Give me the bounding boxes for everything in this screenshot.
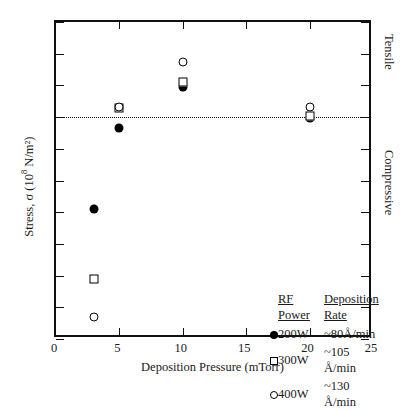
y-tick-right (361, 54, 369, 55)
y-tick-right (361, 212, 369, 213)
x-tick-label: 20 (288, 342, 328, 355)
x-tick-bottom (183, 328, 184, 335)
x-tick-top (310, 22, 311, 29)
legend-header-deposition-rate: Deposition Rate (310, 290, 379, 325)
x-tick-label: 15 (224, 342, 264, 355)
y-tick-left (56, 307, 64, 308)
x-tick-bottom (246, 328, 247, 335)
x-tick-label: 10 (161, 342, 201, 355)
y-tick-right (361, 149, 369, 150)
y-tick-left (56, 276, 64, 277)
legend-power-label: 400W (278, 377, 310, 410)
data-point-400w (305, 102, 314, 111)
x-axis-title: Deposition Pressure (mTorr) (54, 360, 371, 375)
y-tick-left (56, 339, 64, 340)
legend-marker-header-cell (270, 290, 278, 325)
y-tick-right (361, 117, 369, 118)
y-tick-right (361, 244, 369, 245)
legend-row: 400W~130 Å/min (270, 377, 379, 410)
x-tick-label: 0 (34, 342, 74, 355)
legend-row: 200W~80Å/min (270, 325, 379, 343)
y-tick-left (56, 54, 64, 55)
y-axis-title-prefix: Stress, σ (10 (22, 174, 36, 237)
y-tick-left (56, 22, 64, 23)
data-point-300w (90, 274, 99, 283)
y-tick-left (56, 117, 64, 118)
open-circle-icon (270, 391, 278, 399)
legend-marker-cell (270, 325, 278, 343)
y-tick-left (56, 244, 64, 245)
y-axis-title: Stress, σ (108 N/m²) (19, 97, 36, 277)
y-tick-left (56, 212, 64, 213)
x-tick-bottom (119, 328, 120, 335)
y-tick-right (361, 181, 369, 182)
region-label-compressive: Compressive (381, 150, 396, 215)
data-point-200w (115, 124, 124, 133)
data-point-400w (115, 102, 124, 111)
x-tick-top (119, 22, 120, 29)
data-point-400w (90, 312, 99, 321)
legend-rate-label: ~130 Å/min (310, 377, 379, 410)
y-axis-title-exponent: 8 (19, 170, 29, 174)
y-axis-title-suffix: N/m²) (22, 137, 36, 170)
x-tick-top (246, 22, 247, 29)
x-tick-top (183, 22, 184, 29)
y-tick-left (56, 149, 64, 150)
x-tick-label: 5 (97, 342, 137, 355)
plot-area: RF Power Deposition Rate 200W~80Å/min300… (54, 20, 371, 337)
data-point-300w (305, 112, 314, 121)
filled-circle-icon (270, 331, 278, 339)
y-tick-right (361, 85, 369, 86)
region-label-tensile: Tensile (381, 34, 396, 70)
y-tick-right (361, 276, 369, 277)
x-tick-label: 25 (351, 342, 391, 355)
y-tick-left (56, 85, 64, 86)
y-tick-right (361, 22, 369, 23)
data-point-400w (178, 57, 187, 66)
legend-header-rf-power: RF Power (278, 290, 310, 325)
y-tick-left (56, 181, 64, 182)
data-point-200w (90, 205, 99, 214)
zero-stress-line (56, 117, 369, 118)
legend-header-row: RF Power Deposition Rate (270, 290, 379, 325)
legend-marker-cell (270, 377, 278, 410)
data-point-300w (178, 78, 187, 87)
